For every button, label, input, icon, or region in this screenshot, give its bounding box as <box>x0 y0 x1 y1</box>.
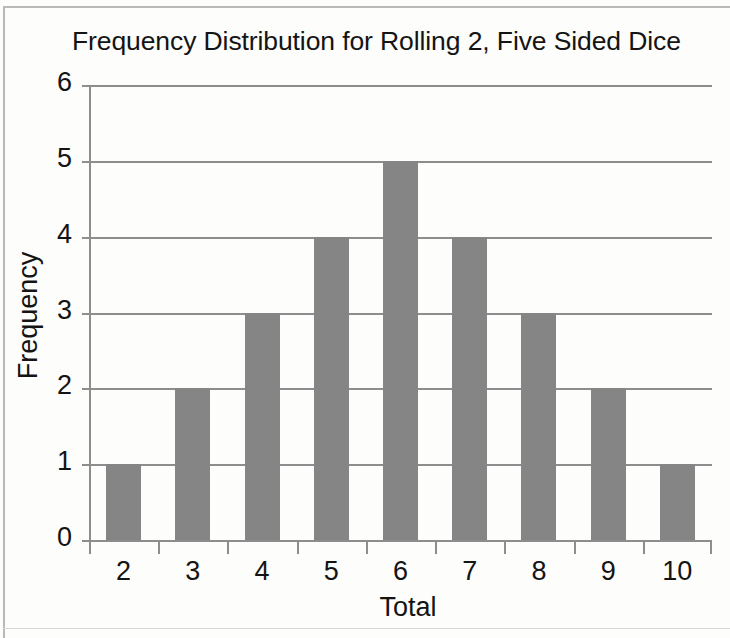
x-axis-tick-label: 5 <box>301 556 361 587</box>
bar <box>106 464 141 540</box>
page-frame-bottom-border <box>3 628 730 629</box>
y-axis-tick-label: 3 <box>38 295 72 326</box>
bar <box>452 237 487 540</box>
y-axis-tick-label: 0 <box>38 522 72 553</box>
bar <box>175 388 210 540</box>
x-axis-tick <box>158 541 160 554</box>
bar <box>660 464 695 540</box>
x-axis-tick-label: 4 <box>232 556 292 587</box>
x-axis-tick <box>643 541 645 554</box>
x-axis-tick-label: 8 <box>509 556 569 587</box>
x-axis-tick <box>574 541 576 554</box>
x-axis-tick <box>435 541 437 554</box>
bar <box>383 161 418 540</box>
x-axis-tick-label: 2 <box>94 556 154 587</box>
x-axis-tick <box>297 541 299 554</box>
page-frame-left-border <box>3 6 5 638</box>
x-axis-tick-label: 7 <box>440 556 500 587</box>
x-axis-tick <box>504 541 506 554</box>
y-axis-tick-label: 1 <box>38 446 72 477</box>
chart-page: Frequency Distribution for Rolling 2, Fi… <box>0 0 730 638</box>
x-axis-tick-label: 6 <box>371 556 431 587</box>
x-axis-end-tick <box>710 541 712 554</box>
bar <box>314 237 349 540</box>
bar <box>245 313 280 541</box>
y-axis-tick-label: 2 <box>38 370 72 401</box>
gridline <box>89 85 712 87</box>
x-axis-tick-label: 9 <box>578 556 638 587</box>
x-axis-tick <box>89 541 91 554</box>
y-axis-tick-label: 4 <box>38 219 72 250</box>
y-axis-tick-label: 5 <box>38 143 72 174</box>
x-axis-tick <box>227 541 229 554</box>
plot-area <box>89 85 712 540</box>
x-axis-tick-label: 10 <box>647 556 707 587</box>
x-axis-title: Total <box>308 592 508 623</box>
y-axis-tick-label: 6 <box>38 67 72 98</box>
chart-title: Frequency Distribution for Rolling 2, Fi… <box>72 26 722 57</box>
page-frame-top-border <box>3 6 730 8</box>
bar <box>521 313 556 541</box>
bar <box>591 388 626 540</box>
x-axis-tick-label: 3 <box>163 556 223 587</box>
x-axis-tick <box>366 541 368 554</box>
gridline <box>89 540 712 542</box>
